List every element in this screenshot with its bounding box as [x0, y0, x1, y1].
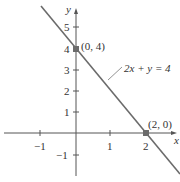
- y-axis-arrow-icon: [74, 8, 78, 14]
- y-tick-label: −1: [56, 149, 68, 161]
- coordinate-plane: −1 1 2 5 4 3 2 1 −1 y x 2x + y = 4 (0, 4…: [0, 0, 180, 182]
- y-tick-label: 5: [64, 21, 70, 33]
- x-tick-label: −1: [34, 140, 46, 152]
- point-marker: [143, 130, 149, 136]
- point-label: (0, 4): [81, 40, 105, 53]
- y-tick-label: 1: [64, 106, 70, 118]
- equation-label: 2x + y = 4: [124, 62, 171, 74]
- x-axis-label: x: [173, 134, 179, 146]
- y-axis-label: y: [65, 3, 71, 15]
- label-leader-line: [108, 67, 122, 80]
- point-marker: [73, 46, 79, 52]
- point-label: (2, 0): [148, 118, 172, 131]
- axes: [4, 8, 177, 176]
- y-tick-label: 2: [64, 85, 70, 97]
- y-tick-label: 4: [64, 43, 70, 55]
- x-tick-label: 2: [143, 140, 149, 152]
- y-tick-label: 3: [64, 64, 70, 76]
- x-tick-label: 1: [107, 140, 113, 152]
